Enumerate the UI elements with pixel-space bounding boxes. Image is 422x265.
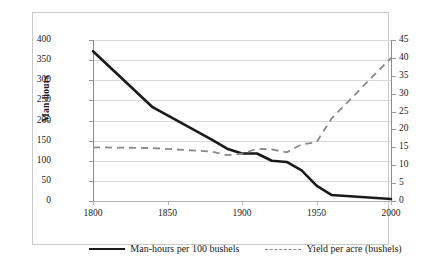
y-axis-right-tick [392, 129, 396, 130]
x-axis-tick-label: 1950 [307, 209, 326, 219]
x-axis-tick-label: 1900 [233, 209, 252, 219]
y-axis-right-tick [392, 40, 396, 41]
series-line-man-hours [93, 51, 391, 199]
series-line-yield [93, 58, 391, 155]
plot-area [93, 40, 391, 201]
legend-item-yield: Yield per acre (bushels) [265, 244, 401, 254]
x-axis-tick-label: 2000 [382, 209, 401, 219]
chart-legend: Man-hours per 100 bushels Yield per acre… [73, 241, 418, 257]
legend-swatch-dashed-icon [265, 249, 301, 250]
x-axis-tick [317, 201, 318, 205]
y-axis-left-tick-label: 400 [37, 35, 51, 45]
x-axis-tick-label: 1800 [84, 209, 103, 219]
y-axis-right-tick [392, 112, 396, 113]
y-axis-right-tick-label: 10 [399, 160, 409, 170]
y-axis-left-tick-label: 0 [46, 196, 51, 206]
x-axis-tick [168, 201, 169, 205]
y-axis-right-tick [392, 147, 396, 148]
x-axis-tick [93, 201, 94, 205]
x-axis-tick [391, 201, 392, 205]
y-axis-right-tick-label: 15 [399, 142, 409, 152]
y-axis-left-tick-label: 200 [37, 116, 51, 126]
y-axis-right-tick [392, 76, 396, 77]
y-axis-left-tick-label: 100 [37, 156, 51, 166]
y-axis-left-tick-label: 50 [42, 176, 52, 186]
x-axis-tick-label: 1850 [158, 209, 177, 219]
y-axis-right-tick-label: 45 [399, 35, 409, 45]
chart-frame: Man-hours Yield per acre (bushels) 40035… [32, 12, 389, 245]
y-axis-right-tick [392, 183, 396, 184]
y-axis-right-tick [392, 165, 396, 166]
y-axis-right-tick [392, 58, 396, 59]
y-axis-right-tick-label: 30 [399, 89, 409, 99]
y-axis-left-tick-label: 150 [37, 136, 51, 146]
y-axis-right-tick [392, 94, 396, 95]
y-axis-right-tick-label: 25 [399, 107, 409, 117]
y-axis-right-tick-label: 35 [399, 71, 409, 81]
y-axis-right-tick [392, 201, 396, 202]
y-axis-left-tick-label: 250 [37, 95, 51, 105]
legend-swatch-solid-icon [89, 248, 125, 250]
y-axis-left-tick-label: 350 [37, 55, 51, 65]
y-axis-right-line [391, 40, 392, 201]
legend-label-man-hours: Man-hours per 100 bushels [130, 244, 239, 254]
y-axis-right-tick-label: 0 [399, 196, 404, 206]
legend-item-man-hours: Man-hours per 100 bushels [89, 244, 239, 254]
x-axis-tick [242, 201, 243, 205]
y-axis-right-tick-label: 40 [399, 53, 409, 63]
y-axis-left-tick-label: 300 [37, 75, 51, 85]
y-axis-right-tick-label: 20 [399, 124, 409, 134]
legend-label-yield: Yield per acre (bushels) [306, 244, 401, 254]
y-axis-right-tick-label: 5 [399, 178, 404, 188]
